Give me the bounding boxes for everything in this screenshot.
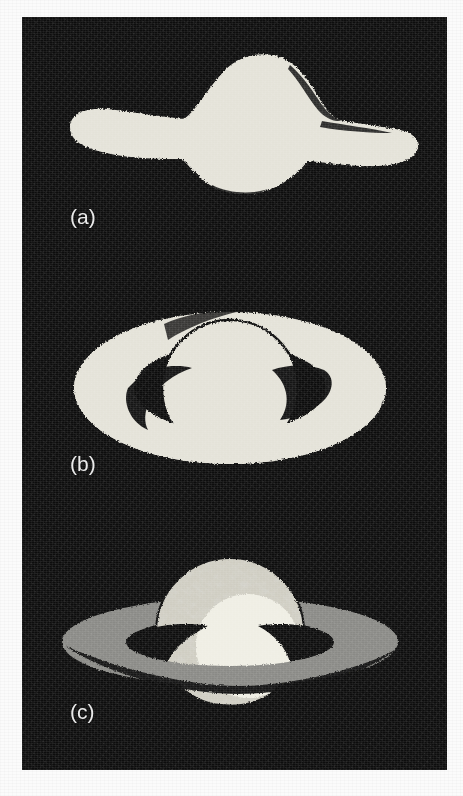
saturn-open-rings-group bbox=[22, 270, 447, 520]
saturn-body-and-rings-shape bbox=[70, 54, 418, 194]
panel-c-illustration bbox=[22, 520, 447, 770]
panel-label-b: (b) bbox=[70, 452, 96, 476]
saturn-tilted-rings-group bbox=[22, 520, 447, 770]
ring-front-half bbox=[22, 520, 447, 770]
panel-c: (c) bbox=[22, 520, 447, 770]
saturn-edge-on-silhouette bbox=[70, 54, 418, 194]
panel-label-c: (c) bbox=[70, 700, 95, 724]
panel-a-illustration bbox=[22, 17, 447, 270]
photographic-plate: (a) bbox=[22, 17, 447, 770]
panel-b: (b) bbox=[22, 270, 447, 520]
figure-root: (a) bbox=[0, 0, 463, 796]
panel-label-a: (a) bbox=[70, 205, 96, 229]
panel-a: (a) bbox=[22, 17, 447, 270]
ring-front-arc bbox=[22, 380, 447, 520]
panel-b-illustration bbox=[22, 270, 447, 520]
